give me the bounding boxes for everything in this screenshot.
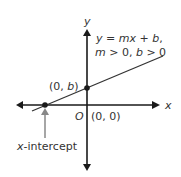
y-intercept-label: (0, b) (49, 80, 79, 93)
x-intercept-label: x-intercept (16, 140, 78, 153)
y-axis-up-arrow-icon (83, 29, 91, 36)
x-intercept-point (42, 102, 48, 108)
x-intercept-pointer (41, 108, 49, 138)
origin-coords-label: (0, 0) (91, 110, 121, 123)
x-axis-left-arrow-icon (16, 101, 23, 109)
x-axis-label: x (164, 99, 172, 112)
y-intercept-point (84, 85, 90, 91)
y-axis (83, 29, 91, 171)
y-axis-down-arrow-icon (83, 164, 91, 171)
x-axis (16, 101, 160, 109)
equation-line-2: m > 0, b > 0 (95, 46, 166, 59)
equation-line-1: y = mx + b, (95, 32, 163, 45)
x-axis-right-arrow-icon (152, 101, 160, 109)
coordinate-diagram: y x y = mx + b, m > 0, b > 0 (0, b) O (0… (0, 0, 181, 177)
diagram-canvas: y x y = mx + b, m > 0, b > 0 (0, b) O (0… (0, 0, 181, 177)
pointer-arrow-icon (41, 108, 49, 115)
origin-label: O (75, 110, 84, 123)
y-axis-label: y (83, 15, 91, 28)
